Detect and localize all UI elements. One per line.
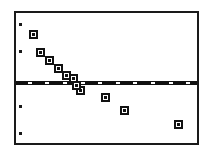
y-axis-tick-2 — [19, 50, 22, 53]
data-point — [29, 30, 38, 39]
data-point — [101, 93, 110, 102]
reference-line-tick-break — [116, 82, 120, 84]
reference-line-tick-break — [98, 82, 102, 84]
reference-line-tick-break — [81, 82, 85, 84]
y-axis-tick-0 — [19, 132, 22, 135]
reference-line-tick-break — [151, 82, 155, 84]
scatter-plot-figure — [0, 0, 211, 151]
data-point — [174, 120, 183, 129]
reference-line-tick-break — [45, 82, 49, 84]
y-axis-tick-3 — [19, 23, 22, 26]
data-point — [36, 48, 45, 57]
reference-line-tick-break — [28, 82, 32, 84]
reference-line-tick-break — [63, 82, 67, 84]
reference-line-tick-break — [133, 82, 137, 84]
plot-frame — [14, 11, 199, 145]
data-point — [45, 56, 54, 65]
y-axis-tick-1 — [19, 105, 22, 108]
data-point — [120, 106, 129, 115]
data-point — [54, 64, 63, 73]
data-point — [72, 81, 81, 90]
plot-area — [16, 13, 197, 143]
reference-line-tick-break — [169, 82, 173, 84]
reference-line-tick-break — [186, 82, 190, 84]
